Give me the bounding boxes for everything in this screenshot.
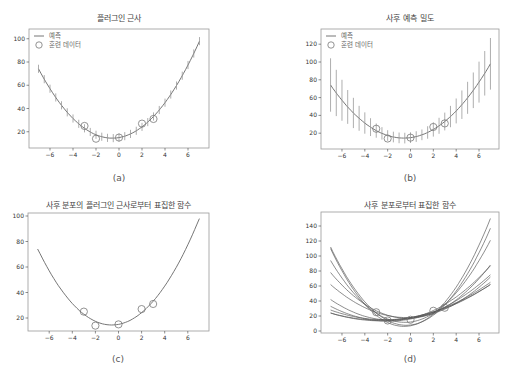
x-tick-label: 6 [186,334,190,341]
x-tick-label: 0 [409,152,413,159]
subplot-a: 플러그인 근사(a)−6−4−2024620406080100예측훈련 데이터 [14,13,209,183]
y-tick-label: 120 [306,40,318,47]
y-tick-label: 100 [14,35,26,42]
legend-label: 훈련 데이터 [341,40,373,49]
legend-label: 훈련 데이터 [49,40,81,49]
y-tick-label: 60 [17,81,25,88]
subfigure-caption: (c) [112,354,124,364]
x-tick-label: −4 [68,334,77,341]
subplot-b: 사후 예측 밀도(b)−6−4−2024620406080100120예측훈련 … [306,13,499,183]
chart-title: 사후 예측 밀도 [386,13,433,23]
x-tick-label: −6 [45,334,54,341]
x-tick-label: 6 [477,152,481,159]
x-tick-label: −4 [360,336,369,343]
subplot-d: 사후 분포로부터 표집한 함수(d)−6−4−20246020406080100… [306,200,499,364]
x-tick-label: 2 [431,152,435,159]
x-tick-label: 0 [117,334,121,341]
y-tick-label: 100 [13,212,25,219]
chart-title: 사후 분포의 플러그인 근사로부터 표집한 함수 [46,200,192,210]
chart-title: 사후 분포로부터 표집한 함수 [364,200,456,210]
x-tick-label: 6 [186,151,190,158]
x-tick-label: 4 [454,336,458,343]
axes-frame [28,213,209,331]
subplot-c: 사후 분포의 플러그인 근사로부터 표집한 함수(c)−6−4−20246204… [13,200,209,364]
subfigure-caption: (a) [113,173,126,183]
x-tick-label: 0 [409,336,413,343]
y-tick-label: 20 [309,129,317,136]
y-tick-label: 140 [306,222,318,229]
y-tick-label: 40 [309,111,317,118]
y-tick-label: 120 [306,237,318,244]
y-tick-label: 100 [306,58,318,65]
y-tick-label: 0 [313,327,317,334]
x-tick-label: 2 [140,334,144,341]
x-tick-label: 6 [477,336,481,343]
y-tick-label: 80 [16,238,24,245]
x-tick-label: −2 [92,151,101,158]
y-tick-label: 60 [309,94,317,101]
subfigure-caption: (b) [404,173,417,183]
y-tick-label: 80 [309,76,317,83]
x-tick-label: −6 [46,151,55,158]
y-tick-label: 80 [17,58,25,65]
y-tick-label: 80 [309,267,317,274]
x-tick-label: −6 [338,152,347,159]
y-tick-label: 100 [306,252,318,259]
y-tick-label: 60 [309,282,317,289]
y-tick-label: 20 [17,128,25,135]
x-tick-label: 0 [117,151,121,158]
x-tick-label: 2 [140,151,144,158]
y-tick-label: 40 [16,289,24,296]
x-tick-label: 4 [163,151,167,158]
x-tick-label: −2 [383,336,392,343]
chart-title: 플러그인 근사 [97,13,143,23]
x-tick-label: −6 [338,336,347,343]
y-tick-label: 20 [16,314,24,321]
y-tick-label: 60 [16,263,24,270]
x-tick-label: 2 [431,336,435,343]
legend-label: 예측 [341,31,353,40]
x-tick-label: −2 [91,334,100,341]
x-tick-label: 4 [163,334,167,341]
x-tick-label: −2 [383,152,392,159]
y-tick-label: 40 [309,297,317,304]
x-tick-label: −4 [360,152,369,159]
figure: 플러그인 근사(a)−6−4−2024620406080100예측훈련 데이터사… [0,0,514,377]
y-tick-label: 40 [17,105,25,112]
x-tick-label: −4 [69,151,78,158]
x-tick-label: 4 [454,152,458,159]
y-tick-label: 20 [309,312,317,319]
subfigure-caption: (d) [404,354,417,364]
legend-label: 예측 [49,31,61,40]
